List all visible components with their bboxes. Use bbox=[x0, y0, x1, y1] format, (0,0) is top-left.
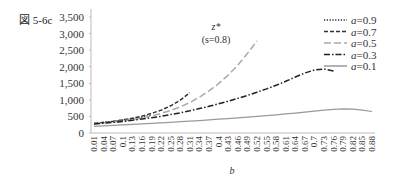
x-tick-label: 0.49 bbox=[242, 136, 252, 152]
x-tick-label: 0.64 bbox=[290, 136, 300, 152]
x-tick-label: 0.37 bbox=[204, 136, 214, 152]
annotation-s: (s=0.8) bbox=[202, 34, 231, 46]
x-tick-label: 0.22 bbox=[156, 136, 166, 152]
x-tick-label: 0.52 bbox=[252, 136, 262, 152]
legend: a=0.9a=0.7a=0.5a=0.3a=0.1 bbox=[324, 14, 377, 72]
x-tick-label: 0.88 bbox=[367, 136, 377, 152]
y-tick-label: 3,500 bbox=[59, 11, 84, 23]
y-tick-label: 2,500 bbox=[59, 44, 84, 56]
y-tick-label: 3,000 bbox=[59, 28, 84, 40]
series-lines bbox=[94, 41, 372, 127]
x-tick-label: 0.07 bbox=[108, 136, 118, 152]
x-tick-label: 0.04 bbox=[99, 136, 109, 152]
x-tick-label: 0.01 bbox=[89, 136, 99, 152]
series-line-a-0_3 bbox=[94, 69, 334, 124]
x-tick-label: 0.34 bbox=[194, 136, 204, 152]
line-chart: 05001,0001,5002,0002,5003,0003,500 0.010… bbox=[0, 0, 395, 177]
x-tick-label: 0.7 bbox=[309, 136, 319, 148]
series-line-a-0_5 bbox=[94, 41, 257, 124]
x-tick-label: 0.82 bbox=[348, 136, 358, 152]
y-tick-label: 500 bbox=[68, 110, 85, 122]
legend-label: a=0.3 bbox=[351, 49, 377, 61]
x-tick-label: 0.4 bbox=[214, 136, 224, 148]
x-tick-label: 0.58 bbox=[271, 136, 281, 152]
x-tick-label: 0.31 bbox=[185, 136, 195, 152]
x-tick-label: 0.55 bbox=[262, 136, 272, 152]
legend-label: a=0.7 bbox=[351, 26, 377, 38]
x-tick-label: 0.67 bbox=[300, 136, 310, 152]
x-tick-label: 0.43 bbox=[223, 136, 233, 152]
x-tick-label: 0.46 bbox=[233, 136, 243, 152]
x-tick-label: 0.28 bbox=[175, 136, 185, 152]
y-axis-ticks: 05001,0001,5002,0002,5003,0003,500 bbox=[59, 11, 91, 139]
y-tick-label: 1,500 bbox=[59, 77, 84, 89]
x-tick-label: 0.19 bbox=[147, 136, 157, 152]
legend-label: a=0.5 bbox=[351, 37, 377, 49]
x-tick-label: 0.79 bbox=[338, 136, 348, 152]
x-tick-label: 0.1 bbox=[118, 136, 128, 147]
x-tick-label: 0.16 bbox=[137, 136, 147, 152]
y-tick-label: 1,000 bbox=[59, 94, 84, 106]
x-tick-label: 0.25 bbox=[166, 136, 176, 152]
x-tick-label: 0.13 bbox=[127, 136, 137, 152]
x-tick-label: 0.85 bbox=[357, 136, 367, 152]
x-tick-label: 0.76 bbox=[329, 136, 339, 152]
x-tick-label: 0.73 bbox=[319, 136, 329, 152]
y-tick-label: 2,000 bbox=[59, 61, 84, 73]
y-tick-label: 0 bbox=[79, 127, 85, 139]
x-axis-label: b bbox=[230, 165, 235, 176]
x-tick-label: 0.61 bbox=[281, 136, 291, 152]
legend-label: a=0.1 bbox=[351, 60, 376, 72]
annotation-z-star: z* bbox=[211, 21, 221, 32]
legend-label: a=0.9 bbox=[351, 14, 377, 26]
x-axis-ticks: 0.010.040.070.10.130.160.190.220.250.280… bbox=[89, 136, 377, 152]
